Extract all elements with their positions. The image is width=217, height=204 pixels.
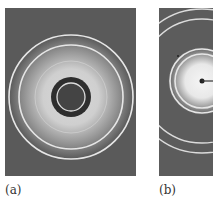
diffraction-panel-b — [159, 8, 213, 176]
diffraction-pattern-a — [5, 8, 136, 176]
diffraction-pattern-b — [159, 8, 213, 176]
panel-label-b: (b) — [159, 183, 176, 197]
diffraction-panel-a — [5, 8, 136, 176]
panel-label-a: (a) — [5, 183, 22, 197]
